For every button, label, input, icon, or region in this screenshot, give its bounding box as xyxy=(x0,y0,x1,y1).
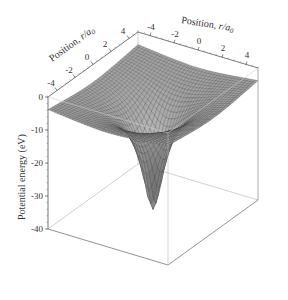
potential-surface-mesh xyxy=(48,45,258,210)
left-axis-title: Position, r/a0 xyxy=(47,23,98,65)
tick-label: -4 xyxy=(147,22,155,32)
tick-label: -10 xyxy=(31,125,43,135)
z-axis-ticks: 0-10-20-30-40 xyxy=(31,92,48,234)
tick-label: 0 xyxy=(85,52,90,62)
right-axis-title: Position, r/a0 xyxy=(180,14,235,35)
tick-label: -20 xyxy=(31,158,43,168)
tick-label: 4 xyxy=(121,26,126,36)
tick-label: -30 xyxy=(31,191,43,201)
tick-label: -4 xyxy=(47,78,55,88)
tick-label: 2 xyxy=(221,43,226,53)
z-axis-title: Potential energy (eV) xyxy=(16,134,28,220)
potential-energy-surface-plot: -4-2024 -4-2024 0-10-20-30-40 Position, … xyxy=(0,0,288,300)
tick-label: -2 xyxy=(171,29,179,39)
tick-label: 0 xyxy=(39,92,44,102)
tick-label: 0 xyxy=(197,36,202,46)
tick-label: 2 xyxy=(103,39,108,49)
tick-label: -2 xyxy=(65,65,73,75)
tick-label: -40 xyxy=(31,224,43,234)
tick-label: 4 xyxy=(245,50,250,60)
